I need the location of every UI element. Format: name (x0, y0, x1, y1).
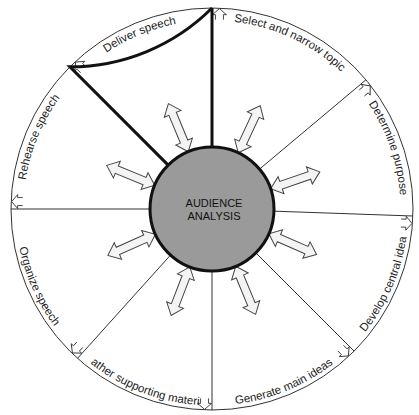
center-circle-group: AUDIENCE ANALYSIS (150, 147, 274, 271)
speech-process-wheel: AUDIENCE ANALYSIS Select and narrow topi… (0, 0, 419, 415)
center-label-line-1: AUDIENCE (186, 197, 243, 209)
center-label-line-2: ANALYSIS (188, 210, 241, 222)
audience-analysis-circle (150, 147, 274, 271)
